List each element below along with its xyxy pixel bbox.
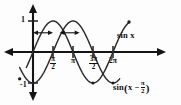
curve-label-frac-denominator: 2 <box>141 87 145 95</box>
y-axis-arrow-down <box>29 92 37 101</box>
y-axis-label-negative-one: -1 <box>20 81 27 89</box>
curve-label-sin-x: sin x <box>117 31 135 40</box>
curve-label-fraction: π2 <box>141 80 145 95</box>
pi-over-2-denominator: 2 <box>50 63 56 71</box>
curve-label-variable: x − <box>128 82 140 92</box>
endpoint-dot-sin-x <box>127 20 130 23</box>
sine-phase-shift-figure: 1 -1 π 2 π 3π 2 2π sin x sin(x −π2) <box>0 0 181 105</box>
x-axis-arrow-right <box>157 48 166 56</box>
x-tick-label-pi: π <box>67 57 79 65</box>
three-pi-over-2-denominator: 2 <box>89 63 99 71</box>
x-axis-arrow-left <box>4 48 13 56</box>
pi-over-2-numerator: π <box>50 56 56 63</box>
curve-label-close-paren: ) <box>146 82 150 94</box>
y-axis-label-one: 1 <box>21 16 25 24</box>
y-axis-arrow-up <box>29 4 37 13</box>
curve-label-sin-x-minus-pi-over-2: sin(x −π2) <box>113 80 150 95</box>
x-tick-label-pi-over-2: π 2 <box>46 56 60 72</box>
x-tick-label-three-pi-over-2: 3π 2 <box>85 56 102 72</box>
curve-label-frac-numerator: π <box>141 80 145 87</box>
trough-dot-sin-x <box>92 82 95 85</box>
three-pi-over-2-numerator: 3π <box>89 56 99 63</box>
x-tick-label-two-pi: 2π <box>106 57 120 65</box>
curve-label-prefix: sin <box>113 82 124 92</box>
plot-canvas <box>0 0 181 105</box>
